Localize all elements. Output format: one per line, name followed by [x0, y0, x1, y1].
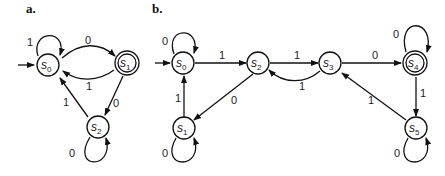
panel-b: b. 0 1 0 1 0 1 1 0 0 1 1	[152, 1, 428, 162]
panel-b-label: b.	[152, 1, 162, 16]
edge-label-b-s4-s5: 1	[420, 87, 426, 99]
edge-label-b-s3-s4: 0	[372, 49, 378, 61]
edge-b-s5-s5	[404, 138, 428, 162]
edge-label-a-s2-s0: 1	[63, 96, 69, 108]
edge-a-s0-s0	[37, 36, 61, 56]
edge-label-a-s2-s2: 0	[69, 147, 75, 159]
state-b-s2: s2	[247, 52, 269, 74]
state-a-s0: s0	[37, 54, 59, 76]
edge-label-b-s0-s0: 0	[162, 35, 168, 47]
edge-label-a-s1-s2: 0	[113, 97, 119, 109]
edge-b-s4-s4	[404, 26, 428, 52]
edge-label-a-s0-s1: 0	[85, 34, 91, 46]
edge-a-s1-s2	[105, 76, 123, 115]
state-diagrams: a. 1 0 1 0 1 0 s0 s1 s	[0, 0, 445, 176]
state-b-s5: s5	[405, 117, 427, 139]
state-a-s2: s2	[87, 116, 109, 138]
edge-label-b-s2-s1: 0	[231, 94, 237, 106]
state-b-s1: s1	[173, 117, 195, 139]
edge-a-s0-s1	[62, 46, 115, 58]
edge-a-s2-s2	[85, 137, 107, 162]
state-a-s1-accepting: s1	[115, 51, 139, 75]
edge-b-s1-s1	[172, 138, 196, 162]
edge-a-s1-s0	[63, 70, 114, 79]
state-b-s0: s0	[172, 52, 194, 74]
edge-label-b-s0-s2: 1	[219, 49, 225, 61]
edge-b-s0-s0	[172, 33, 195, 54]
edge-b-s2-s1	[194, 74, 253, 120]
edge-label-a-s0-s0: 1	[27, 36, 33, 48]
edge-label-b-s4-s4: 0	[393, 28, 399, 40]
edge-label-b-s1-s1: 0	[162, 147, 168, 159]
state-b-s3: s3	[319, 52, 341, 74]
panel-a: a. 1 0 1 0 1 0 s0 s1 s	[18, 1, 139, 162]
edge-label-b-s5-s3: 1	[368, 94, 374, 106]
edge-label-a-s1-s0: 1	[86, 80, 92, 92]
edge-label-b-s5-s5: 0	[394, 147, 400, 159]
state-b-s4-accepting: s4	[403, 51, 427, 75]
edge-label-b-s1-s0: 1	[175, 92, 181, 104]
edge-b-s3-s2	[269, 70, 320, 81]
edge-label-b-s3-s2: 1	[299, 80, 305, 92]
edge-label-b-s2-s3: 1	[294, 49, 300, 61]
panel-a-label: a.	[26, 1, 36, 16]
